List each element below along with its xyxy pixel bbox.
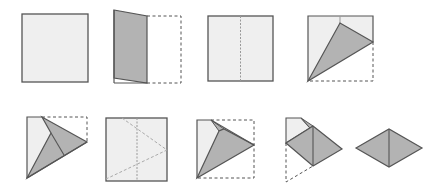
step-9-diamond [356, 129, 422, 167]
step-8-flap-fold [286, 118, 342, 182]
step-6-crease-pattern [106, 118, 167, 181]
step-7-refold [197, 120, 254, 178]
step-3-center-crease [208, 16, 273, 81]
step-2-fold-left [114, 10, 181, 83]
step-1-square [22, 14, 88, 82]
step-4-triangle-fold [308, 16, 373, 81]
origami-diagram [0, 0, 441, 188]
step-5-kite-fold [27, 117, 87, 178]
